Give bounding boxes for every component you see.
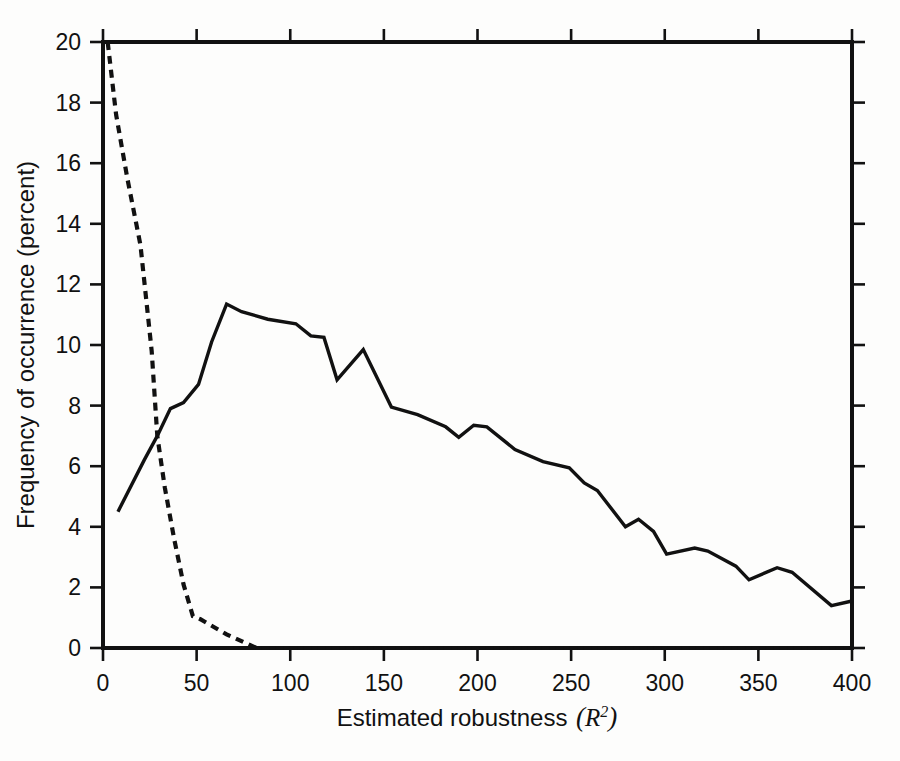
y-tick-label: 10 [55,332,81,358]
x-tick-label: 100 [271,670,309,696]
y-tick-labels: 02468101214161820 [55,29,81,661]
x-tick-label: 50 [184,670,210,696]
y-tick-label: 0 [68,635,81,661]
y-tick-label: 12 [55,271,81,297]
x-axis-ticks [103,29,852,661]
series-solid-curve [118,304,852,605]
y-tick-label: 4 [68,514,81,540]
series-layer [108,42,852,648]
x-tick-label: 300 [646,670,684,696]
y-tick-label: 14 [55,211,81,237]
line-chart: 050100150200250300350400 024681012141618… [0,0,900,761]
y-tick-label: 6 [68,453,81,479]
y-tick-label: 16 [55,150,81,176]
x-tick-label: 200 [458,670,496,696]
y-tick-label: 20 [55,29,81,55]
x-tick-label: 250 [552,670,590,696]
y-tick-label: 18 [55,90,81,116]
x-tick-label: 350 [739,670,777,696]
chart-figure: 050100150200250300350400 024681012141618… [0,0,900,761]
x-tick-label: 0 [97,670,110,696]
x-axis-title: Estimated robustness (R2) [337,702,618,732]
x-tick-label: 400 [833,670,871,696]
y-axis-title: Frequency of occurrence (percent) [12,161,39,529]
y-tick-label: 2 [68,574,81,600]
x-tick-labels: 050100150200250300350400 [97,670,872,696]
x-tick-label: 150 [365,670,403,696]
y-tick-label: 8 [68,393,81,419]
series-dashed-curve [108,42,852,648]
y-axis-ticks [90,42,865,648]
